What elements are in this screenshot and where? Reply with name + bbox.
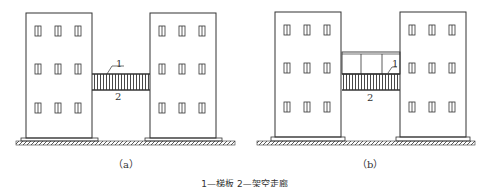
callout-2-b: 2 (367, 92, 373, 103)
panel-a (16, 13, 235, 145)
callout-1-a: 1 (116, 58, 122, 69)
panel-label-a: （a） (113, 156, 139, 171)
ground-b (257, 137, 475, 145)
building-left-b (275, 12, 341, 137)
panel-label-b: （b） (357, 156, 383, 171)
building-right-b (400, 12, 466, 137)
ground-a (16, 138, 235, 145)
building-right-a (150, 13, 216, 138)
figure-caption: 1—梯板 2—架空走廊 (0, 177, 489, 187)
building-left-a (26, 13, 92, 138)
callout-2-a: 2 (115, 91, 121, 102)
panel-b (257, 12, 475, 145)
callout-1-b: 1 (392, 58, 398, 69)
diagram-canvas (0, 0, 489, 187)
bridge-a (92, 74, 150, 90)
